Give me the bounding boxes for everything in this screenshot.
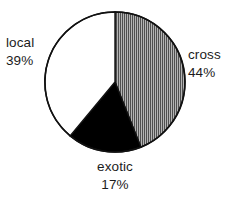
pie-label-exotic-name: exotic (77, 158, 153, 176)
pie-label-exotic: exotic 17% (77, 158, 153, 194)
pie-label-local-value: 39% (6, 52, 34, 70)
pie-chart: local 39% cross 44% exotic 17% (0, 0, 232, 202)
pie-label-exotic-value: 17% (77, 176, 153, 194)
pie-label-cross-value: 44% (188, 64, 221, 82)
pie-label-cross: cross 44% (188, 46, 221, 82)
pie-label-local-name: local (6, 34, 34, 52)
pie-label-cross-name: cross (188, 46, 221, 64)
pie-label-local: local 39% (6, 34, 34, 70)
